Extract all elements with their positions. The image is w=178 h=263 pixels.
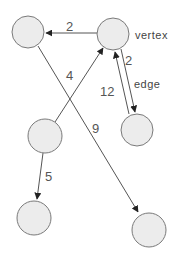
- vertex-annotation: vertex: [135, 29, 168, 41]
- weight-label-c-b: 12: [100, 84, 114, 99]
- weight-label-d-b: 4: [66, 68, 73, 83]
- weight-label-a-f: 9: [92, 121, 99, 136]
- vertex-c: [121, 114, 153, 146]
- annotations: vertex edge: [134, 29, 168, 90]
- vertex-f: [132, 213, 166, 247]
- weight-label-b-c: 2: [125, 53, 132, 68]
- edge-d-to-e: [37, 153, 43, 199]
- vertex-e: [17, 201, 51, 235]
- graph-diagram: 2 4 2 12 9 5 vertex edge: [0, 0, 178, 263]
- edge-annotation: edge: [134, 78, 160, 90]
- edge-d-to-b: [55, 48, 103, 122]
- weight-label-b-a: 2: [66, 19, 73, 34]
- vertex-b: [97, 18, 129, 50]
- weight-label-d-e: 5: [45, 169, 52, 184]
- vertex-a: [12, 16, 44, 48]
- vertex-d: [28, 119, 62, 153]
